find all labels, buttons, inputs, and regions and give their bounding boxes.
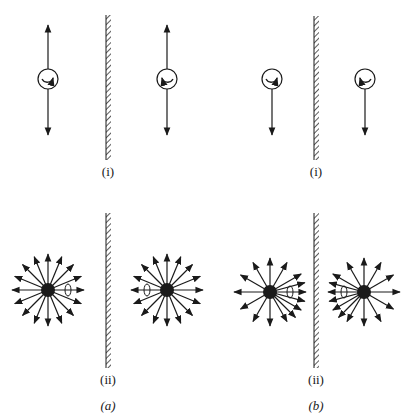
mirror-b-ii	[314, 213, 319, 368]
dipole-b-1	[355, 69, 375, 135]
radiation-star-a-1	[131, 254, 203, 326]
radiation-star-b-0	[234, 258, 306, 326]
mirror-b-i	[314, 16, 319, 160]
label-a-ii: (ii)	[100, 372, 116, 388]
radiation-pattern-group	[12, 254, 400, 326]
dipole-group	[38, 25, 375, 135]
dipole-a-1	[157, 25, 177, 135]
label-b: (b)	[308, 398, 323, 414]
dipole-b-0	[262, 69, 282, 135]
label-a: (a)	[100, 398, 115, 414]
dipole-a-0	[38, 25, 58, 135]
mirror-a-ii	[106, 213, 111, 368]
label-a-i: (i)	[102, 164, 114, 180]
mirror-dipole-diagram	[0, 0, 416, 420]
label-b-ii: (ii)	[308, 372, 324, 388]
mirror-a-i	[106, 15, 111, 160]
radiation-star-b-1	[328, 258, 400, 326]
radiation-star-a-0	[12, 254, 84, 326]
label-b-i: (i)	[310, 164, 322, 180]
